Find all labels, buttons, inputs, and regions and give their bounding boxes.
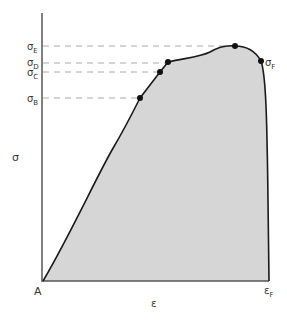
label-sigma-f: σF (265, 57, 275, 71)
point-c (157, 69, 163, 75)
stress-strain-diagram: σE σD σC σB σF σ A ε εF (0, 0, 287, 322)
origin-label: A (34, 285, 42, 298)
label-epsilon-f: εF (264, 285, 273, 299)
label-sigma-b: σB (27, 93, 38, 107)
area-under-curve (43, 46, 269, 281)
point-b (137, 95, 143, 101)
x-axis-label: ε (151, 298, 156, 309)
label-sigma-e: σE (27, 41, 38, 55)
point-d (165, 59, 171, 65)
point-f (258, 58, 264, 64)
y-axis-label: σ (12, 151, 19, 164)
point-e (232, 43, 238, 49)
